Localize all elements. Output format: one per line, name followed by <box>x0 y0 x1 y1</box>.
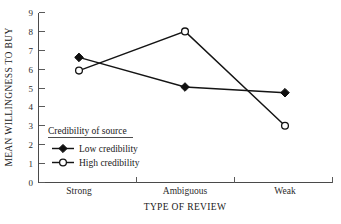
legend-entry-low-credibility: Low credibility <box>52 144 138 154</box>
series-high-credibility <box>76 28 289 129</box>
line-chart: 9 8 7 6 5 4 3 2 1 0 Strong Ambiguous Wea… <box>0 0 341 224</box>
y-tick-label-5: 5 <box>29 84 34 94</box>
y-tick-label-1: 1 <box>29 159 34 169</box>
y-axis-ticks <box>39 13 45 183</box>
y-axis-title: MEAN WILLINGNESS TO BUY <box>4 27 14 166</box>
series-high-credibility-line <box>79 31 285 125</box>
legend-label-high-credibility: High credibility <box>79 158 140 168</box>
data-point-low-ambiguous <box>181 83 190 92</box>
axis-lines <box>39 13 333 183</box>
x-tick-label-strong: Strong <box>66 186 92 196</box>
y-tick-label-8: 8 <box>29 27 34 37</box>
chart-legend: Credibility of source Low credibility Hi… <box>48 126 140 168</box>
open-circle-icon <box>60 159 67 166</box>
y-tick-label-0: 0 <box>29 178 34 188</box>
y-axis-tick-labels: 9 8 7 6 5 4 3 2 1 0 <box>29 8 34 188</box>
filled-diamond-icon <box>59 144 67 152</box>
y-tick-label-9: 9 <box>29 8 34 18</box>
x-tick-label-weak: Weak <box>274 186 296 196</box>
legend-title: Credibility of source <box>48 126 127 136</box>
data-point-high-weak <box>282 122 289 129</box>
data-point-low-strong <box>75 53 84 62</box>
data-point-high-strong <box>76 67 83 74</box>
y-tick-label-4: 4 <box>29 102 34 112</box>
chart-figure: 9 8 7 6 5 4 3 2 1 0 Strong Ambiguous Wea… <box>0 0 341 224</box>
x-axis-tick-labels: Strong Ambiguous Weak <box>66 186 296 196</box>
y-tick-label-7: 7 <box>29 46 34 56</box>
data-point-low-weak <box>281 88 290 97</box>
data-point-high-ambiguous <box>182 28 189 35</box>
x-axis-title: TYPE OF REVIEW <box>144 202 226 212</box>
y-tick-label-6: 6 <box>29 65 34 75</box>
y-tick-label-2: 2 <box>29 140 34 150</box>
legend-label-low-credibility: Low credibility <box>79 144 138 154</box>
x-tick-label-ambiguous: Ambiguous <box>163 186 208 196</box>
x-axis-ticks <box>137 177 333 183</box>
y-tick-label-3: 3 <box>29 121 34 131</box>
legend-entry-high-credibility: High credibility <box>52 158 140 168</box>
